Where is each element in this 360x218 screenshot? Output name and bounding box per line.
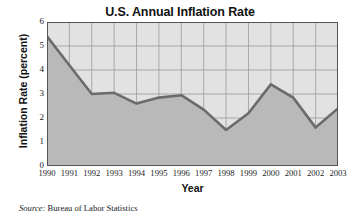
source-note: Source: Bureau of Labor Statistics (19, 203, 138, 213)
y-axis-tick-label: 2 (22, 112, 44, 122)
x-axis-tick-labels: 1990199119921993199419951996199719981999… (47, 168, 338, 181)
chart-title: U.S. Annual Inflation Rate (0, 5, 360, 19)
y-axis-tick-label: 3 (22, 88, 44, 98)
y-axis-tick-label: 6 (22, 16, 44, 26)
inflation-rate-figure: U.S. Annual Inflation Rate Inflation Rat… (0, 0, 360, 218)
y-axis-tick-label: 1 (22, 136, 44, 146)
source-label: Source: (19, 203, 45, 213)
source-text: Bureau of Labor Statistics (48, 203, 138, 213)
y-axis-tick-label: 5 (22, 40, 44, 50)
y-axis-tick-labels: 0123456 (20, 22, 44, 166)
x-axis-tick-label: 2003 (323, 168, 353, 178)
inflation-area-chart (47, 22, 338, 166)
x-axis-title: Year (47, 182, 338, 194)
y-axis-tick-label: 4 (22, 64, 44, 74)
plot-area (47, 22, 338, 166)
